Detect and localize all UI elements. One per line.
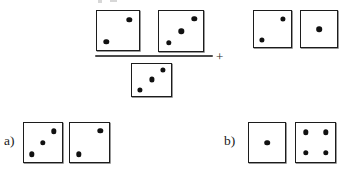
option-b-die-2[interactable] bbox=[295, 122, 336, 163]
pip-icon bbox=[40, 140, 45, 145]
pip-icon bbox=[29, 151, 34, 156]
pip-icon bbox=[280, 16, 285, 21]
pip-icon bbox=[76, 151, 81, 156]
pip-icon bbox=[303, 150, 308, 155]
pip-icon bbox=[51, 128, 56, 133]
addend-die-1 bbox=[253, 10, 292, 48]
option-b-die-1[interactable] bbox=[248, 122, 286, 163]
pip-icon bbox=[191, 16, 196, 21]
pip-icon bbox=[259, 37, 264, 42]
denominator-die-1 bbox=[131, 63, 172, 97]
fraction-bar bbox=[95, 55, 213, 57]
pip-icon bbox=[303, 130, 308, 135]
puzzle-canvas: + a) b) bbox=[0, 0, 343, 171]
pip-icon bbox=[127, 17, 132, 22]
pip-icon bbox=[166, 40, 171, 45]
addend-die-2 bbox=[300, 10, 338, 48]
option-a-die-1[interactable] bbox=[23, 122, 63, 163]
cropped-text-artifact bbox=[110, 0, 117, 2]
pip-icon bbox=[323, 150, 328, 155]
pip-icon bbox=[98, 128, 103, 133]
plus-operator: + bbox=[216, 50, 223, 63]
numerator-die-1 bbox=[96, 10, 140, 51]
pip-icon bbox=[316, 26, 322, 32]
option-a-label: a) bbox=[4, 134, 15, 148]
pip-icon bbox=[137, 87, 142, 92]
pip-icon bbox=[149, 77, 154, 82]
option-a-die-2[interactable] bbox=[69, 122, 110, 163]
pip-icon bbox=[104, 39, 109, 44]
pip-icon bbox=[161, 67, 166, 72]
numerator-die-2 bbox=[158, 10, 204, 52]
option-b-label: b) bbox=[224, 134, 235, 148]
pip-icon bbox=[264, 140, 270, 146]
pip-icon bbox=[323, 130, 328, 135]
pip-icon bbox=[179, 29, 184, 34]
cropped-text-artifact bbox=[98, 0, 102, 3]
